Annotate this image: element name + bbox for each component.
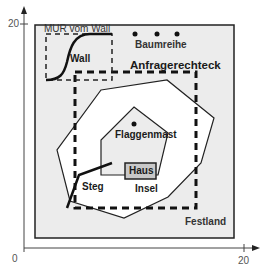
flagpole-label: Flaggenmast (115, 130, 177, 140)
mainland-label: Festland (185, 217, 226, 227)
wall-label: Wall (70, 54, 90, 64)
origin-label: 0 (12, 254, 18, 264)
y-axis (20, 6, 28, 252)
jetty-label: Steg (82, 182, 104, 192)
x-axis-max-label: 20 (238, 256, 249, 266)
y-axis-max-label: 20 (8, 19, 19, 29)
tree-row-label: Baumreihe (135, 40, 187, 50)
flagpole-point (132, 122, 137, 127)
house-label: Haus (129, 166, 153, 176)
x-axis (24, 244, 260, 252)
wall-mbr-label: MUR vom Wall (44, 24, 110, 34)
island-label: Insel (135, 184, 158, 194)
query-rectangle-label: Anfragerechteck (130, 60, 221, 72)
